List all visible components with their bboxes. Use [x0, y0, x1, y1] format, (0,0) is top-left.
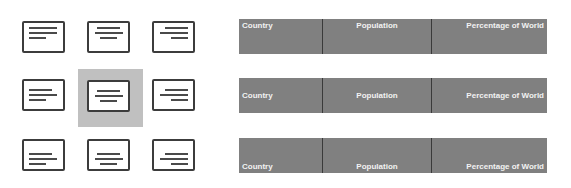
align-bottom-left-button[interactable] — [22, 139, 65, 171]
align-middle-left-button[interactable] — [22, 79, 65, 111]
text-lines-icon — [94, 27, 123, 39]
text-lines-icon — [159, 153, 188, 165]
text-lines-icon — [29, 27, 58, 39]
align-bottom-center-button[interactable] — [87, 139, 130, 171]
header-cell-population: Population — [322, 19, 431, 54]
table-preview-middle-aligned: Country Population Percentage of World — [239, 78, 547, 113]
header-cell-country: Country — [239, 138, 322, 173]
header-cell-percentage-of-world: Percentage of World — [431, 138, 547, 173]
text-lines-icon — [94, 153, 123, 165]
text-lines-icon — [94, 90, 123, 102]
text-lines-icon — [29, 153, 58, 165]
header-cell-country: Country — [239, 78, 322, 113]
header-cell-population: Population — [322, 78, 431, 113]
cell-alignment-grid — [0, 0, 215, 188]
header-cell-country: Country — [239, 19, 322, 54]
align-middle-center-button[interactable] — [87, 80, 130, 112]
text-lines-icon — [29, 89, 58, 101]
align-middle-right-button[interactable] — [152, 79, 195, 111]
header-cell-percentage-of-world: Percentage of World — [431, 19, 547, 54]
align-top-center-button[interactable] — [87, 21, 130, 53]
table-preview-top-aligned: Country Population Percentage of World — [239, 19, 547, 54]
align-top-left-button[interactable] — [22, 21, 65, 53]
table-preview-bottom-aligned: Country Population Percentage of World — [239, 138, 547, 173]
align-top-right-button[interactable] — [152, 21, 195, 53]
align-bottom-right-button[interactable] — [152, 139, 195, 171]
header-cell-percentage-of-world: Percentage of World — [431, 78, 547, 113]
text-lines-icon — [159, 27, 188, 39]
header-cell-population: Population — [322, 138, 431, 173]
text-lines-icon — [159, 89, 188, 101]
